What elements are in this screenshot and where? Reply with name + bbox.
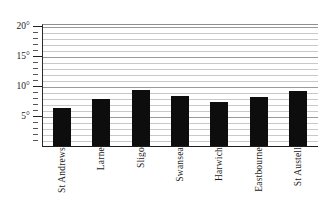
bar xyxy=(171,96,189,147)
y-axis-tick-label: 15° xyxy=(16,51,30,61)
y-axis-minor-tick xyxy=(33,104,38,105)
bars-group xyxy=(42,24,318,146)
bar-chart: 5°10°15°20° St AndrewsLarneSligoSwanseaH… xyxy=(0,0,326,219)
y-axis-minor-tick xyxy=(33,80,38,81)
x-axis-tick-label: Swansea xyxy=(175,147,185,182)
x-axis-tick-label: St Austell xyxy=(293,147,303,186)
y-axis-minor-tick xyxy=(33,110,38,111)
y-axis-tick-label: 10° xyxy=(16,81,30,91)
y-axis-tick-label: 20° xyxy=(16,21,30,31)
y-axis-tick-label: 5° xyxy=(21,111,30,121)
y-axis-minor-tick xyxy=(33,62,38,63)
y-axis-minor-tick xyxy=(33,92,38,93)
y-axis-major-tick xyxy=(33,116,42,117)
bar xyxy=(53,108,71,147)
y-axis-major-tick xyxy=(33,56,42,57)
bar xyxy=(210,102,228,147)
x-axis-tick-label: Sligo xyxy=(136,147,146,168)
bar xyxy=(250,97,268,146)
y-axis-minor-tick xyxy=(33,32,38,33)
y-axis-tick-group xyxy=(33,0,42,219)
y-axis-minor-tick xyxy=(33,38,38,39)
x-axis-tick-label: Larne xyxy=(96,147,106,170)
x-axis-tick-label: St Andrews xyxy=(57,147,67,193)
y-axis-minor-tick xyxy=(33,50,38,51)
y-axis-minor-tick xyxy=(33,74,38,75)
y-axis-label-group: 5°10°15°20° xyxy=(0,0,30,219)
y-axis-minor-tick xyxy=(33,122,38,123)
y-axis-minor-tick xyxy=(33,128,38,129)
y-axis-major-tick xyxy=(33,26,42,27)
bar xyxy=(92,99,110,147)
x-axis-tick-label: Eastbourne xyxy=(254,147,264,192)
y-axis-minor-tick xyxy=(33,68,38,69)
bar xyxy=(289,91,307,146)
y-axis-minor-tick xyxy=(33,134,38,135)
x-axis-label-group: St AndrewsLarneSligoSwanseaHarwichEastbo… xyxy=(42,147,318,219)
bar xyxy=(132,90,150,147)
y-axis-minor-tick xyxy=(33,98,38,99)
y-axis-major-tick xyxy=(33,86,42,87)
y-axis-minor-tick xyxy=(33,44,38,45)
y-axis-minor-tick xyxy=(33,140,38,141)
x-axis-tick-label: Harwich xyxy=(214,147,224,181)
